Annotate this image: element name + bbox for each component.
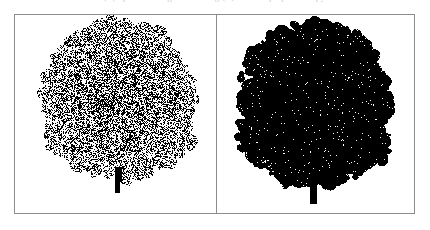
left-tree-panel: [15, 15, 216, 213]
caption-remnant: (a) sparse foliage rendering (b) dense o…: [0, 0, 430, 9]
caption-remnant-text: (a) sparse foliage rendering (b) dense o…: [104, 0, 326, 3]
left-tree-image: [15, 15, 216, 213]
right-tree-image: [217, 15, 415, 213]
right-tree-panel: [217, 15, 415, 213]
figure-frame: [14, 14, 415, 214]
